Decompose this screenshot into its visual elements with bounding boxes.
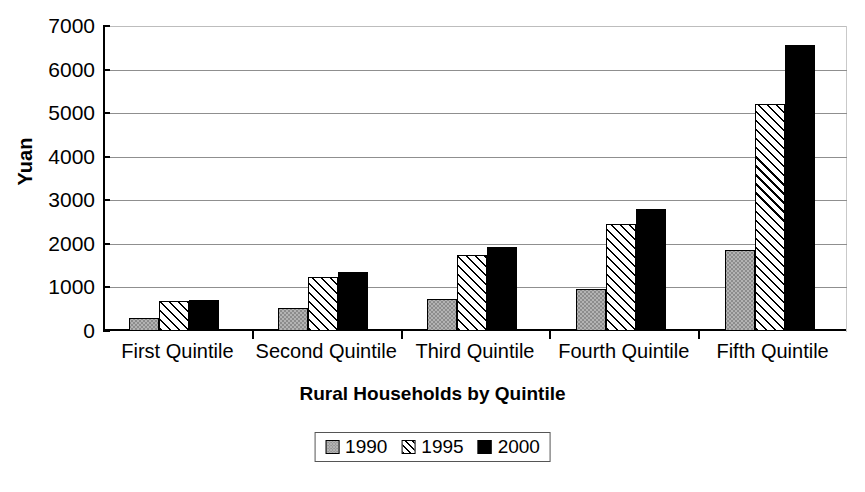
category-tick [401, 331, 403, 339]
y-tick-label: 2000 [9, 233, 95, 254]
bar-2000-first-quintile [189, 300, 219, 331]
gridline [103, 157, 847, 158]
x-axis-title: Rural Households by Quintile [0, 383, 865, 405]
legend: 199019952000 [314, 432, 551, 462]
legend-label-2000: 2000 [498, 437, 540, 456]
gridline [103, 244, 847, 245]
y-tick-mark [103, 199, 110, 201]
gridline [103, 200, 847, 201]
bar-1990-fifth-quintile [725, 250, 755, 331]
y-tick-mark [103, 330, 110, 332]
bar-1995-second-quintile [308, 277, 338, 331]
legend-item-1995: 1995 [401, 437, 463, 456]
y-tick-mark [103, 286, 110, 288]
legend-label-1995: 1995 [421, 437, 463, 456]
bar-2000-fourth-quintile [636, 209, 666, 331]
plot-right-border [846, 26, 847, 332]
y-tick-label: 3000 [9, 189, 95, 210]
bar-1995-fifth-quintile [755, 104, 785, 331]
y-tick-mark [103, 69, 110, 71]
legend-swatch-1995-icon [401, 440, 415, 454]
bar-2000-fifth-quintile [785, 45, 815, 331]
bar-1990-first-quintile [129, 318, 159, 331]
y-tick-mark [103, 112, 110, 114]
bar-chart: Yuan 01000200030004000500060007000 First… [0, 0, 865, 492]
y-tick-label: 7000 [9, 15, 95, 36]
y-tick-mark [103, 156, 110, 158]
y-tick-label: 4000 [9, 146, 95, 167]
x-tick-label-first-quintile: First Quintile [103, 340, 252, 363]
category-tick [698, 331, 700, 339]
bar-1990-fourth-quintile [576, 289, 606, 331]
y-tick-label: 0 [9, 320, 95, 341]
y-tick-label: 5000 [9, 102, 95, 123]
category-tick [549, 331, 551, 339]
y-tick-mark [103, 243, 110, 245]
y-tick-label: 6000 [9, 59, 95, 80]
bar-2000-third-quintile [487, 247, 517, 331]
gridline [103, 113, 847, 114]
legend-swatch-2000-icon [478, 440, 492, 454]
legend-item-1990: 1990 [325, 437, 387, 456]
bar-1995-fourth-quintile [606, 224, 636, 331]
bar-1990-second-quintile [278, 308, 308, 331]
y-tick-mark [103, 25, 110, 27]
category-tick [252, 331, 254, 339]
y-tick-label: 1000 [9, 276, 95, 297]
bar-1990-third-quintile [427, 299, 457, 331]
y-axis-tick-labels: 01000200030004000500060007000 [0, 0, 95, 492]
x-tick-label-second-quintile: Second Quintile [252, 340, 401, 363]
legend-item-2000: 2000 [478, 437, 540, 456]
gridline [103, 70, 847, 71]
legend-swatch-1990-icon [325, 440, 339, 454]
bar-1995-third-quintile [457, 255, 487, 331]
x-tick-label-third-quintile: Third Quintile [401, 340, 550, 363]
x-tick-label-fourth-quintile: Fourth Quintile [549, 340, 698, 363]
bar-1995-first-quintile [159, 301, 189, 331]
plot-top-border [103, 26, 847, 27]
bar-2000-second-quintile [338, 272, 368, 331]
x-tick-label-fifth-quintile: Fifth Quintile [698, 340, 847, 363]
legend-label-1990: 1990 [345, 437, 387, 456]
